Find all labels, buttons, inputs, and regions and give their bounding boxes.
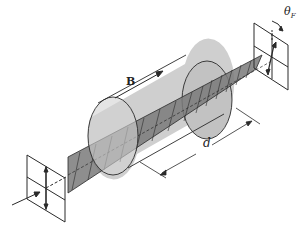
length-label: d [203,136,211,150]
theta-subscript: F [291,12,296,20]
cylinder-front-face [88,97,138,175]
field-label: B [126,75,135,88]
input-polarization-frame [12,155,66,222]
faraday-rotation-diagram [0,0,302,235]
rotation-angle-label: θF [284,5,295,20]
theta-symbol: θ [284,5,291,18]
output-polarization-frame [254,21,288,90]
